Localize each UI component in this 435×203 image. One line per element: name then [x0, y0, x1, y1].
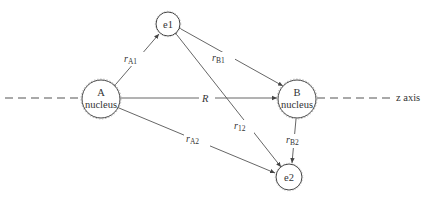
node-A-nucleus: A nucleus: [81, 79, 121, 119]
label-e1: e1: [163, 19, 173, 30]
label-z-axis: z axis: [396, 92, 420, 103]
label-A-nucleus: nucleus: [85, 99, 117, 110]
label-R: R: [201, 93, 209, 104]
node-e2: e2: [275, 163, 303, 191]
label-B-nucleus: nucleus: [281, 99, 313, 110]
label-e2: e2: [284, 172, 294, 183]
label-A: A: [97, 87, 105, 98]
node-e1: e1: [155, 11, 181, 37]
label-B: B: [293, 87, 300, 98]
diagram-canvas: e1 A nucleus B nucleus e2 rA1 rB1 R r12 …: [0, 0, 435, 203]
node-B-nucleus: B nucleus: [277, 79, 317, 119]
